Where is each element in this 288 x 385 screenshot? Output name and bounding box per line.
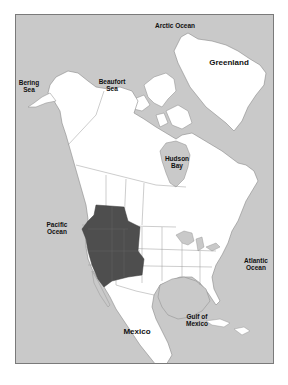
- north-america-map: [16, 15, 274, 364]
- alaska-peninsula: [28, 93, 56, 107]
- map-frame: Arctic Ocean Greenland Bering Sea Beaufo…: [15, 14, 274, 364]
- label-beaufort-sea: Beaufort Sea: [94, 78, 130, 92]
- label-mexico: Mexico: [120, 327, 154, 336]
- label-gulf-of-mexico: Gulf of Mexico: [182, 313, 212, 327]
- label-pacific-ocean: Pacific Ocean: [42, 221, 72, 235]
- label-hudson-bay: Hudson Bay: [162, 155, 192, 169]
- label-greenland: Greenland: [202, 58, 256, 67]
- label-atlantic-ocean: Atlantic Ocean: [240, 257, 272, 271]
- caribbean-islands: [206, 319, 250, 335]
- label-bering-sea: Bering Sea: [16, 79, 42, 93]
- label-arctic-ocean: Arctic Ocean: [150, 22, 200, 29]
